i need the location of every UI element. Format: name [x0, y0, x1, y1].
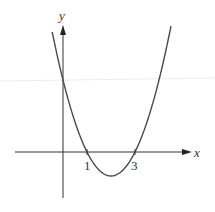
y-axis-label: y [57, 8, 65, 23]
faint-scan-line [0, 78, 215, 81]
parabola-plot: 1 3 x y [0, 0, 215, 212]
tick-label-3: 3 [131, 158, 138, 173]
x-axis-label: x [193, 145, 200, 160]
x-axis-arrow-icon [182, 149, 192, 155]
tick-label-1: 1 [84, 158, 91, 173]
parabola-curve [52, 26, 171, 176]
y-axis-arrow-icon [60, 25, 66, 35]
